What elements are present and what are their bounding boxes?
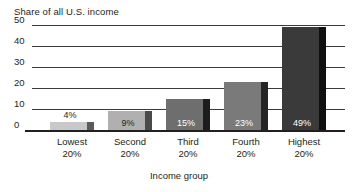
category-label-line1: Fourth (217, 136, 275, 148)
bar-value-label: 9% (106, 119, 150, 128)
bar-value-label: 4% (48, 111, 92, 120)
y-axis-tick-label: 0 (14, 120, 30, 130)
bar-chart: Share of all U.S. income 50403020100 4%9… (0, 0, 358, 192)
x-axis-line (25, 130, 345, 132)
x-axis-category-label: Third20% (159, 136, 217, 159)
bar-slot: 49% (282, 25, 326, 130)
bar-shadow-edge (87, 122, 94, 130)
bar-slot: 9% (108, 25, 152, 130)
category-label-line2: 20% (159, 148, 217, 160)
category-label-line1: Third (159, 136, 217, 148)
bar (50, 122, 94, 130)
bar-slot: 15% (166, 25, 210, 130)
y-axis-tick-label: 20 (14, 78, 30, 88)
x-axis-title: Income group (0, 170, 358, 181)
y-axis-tick-label: 40 (14, 36, 30, 46)
y-axis-tick-label: 30 (14, 57, 30, 67)
x-axis-category-label: Highest20% (275, 136, 333, 159)
bar-shadow-edge (319, 27, 326, 130)
x-axis-category-label: Second20% (101, 136, 159, 159)
category-label-line2: 20% (43, 148, 101, 160)
bar-value-label: 23% (222, 119, 266, 128)
category-label-line2: 20% (101, 148, 159, 160)
bar (282, 27, 326, 130)
y-axis-tick-label: 50 (14, 15, 30, 25)
category-label-line2: 20% (275, 148, 333, 160)
bar-slot: 4% (50, 25, 94, 130)
bar-value-label: 15% (164, 119, 208, 128)
bars-group: 4%9%15%23%49% (32, 25, 345, 130)
category-label-line1: Highest (275, 136, 333, 148)
x-axis-category-label: Fourth20% (217, 136, 275, 159)
bar-slot: 23% (224, 25, 268, 130)
category-label-line1: Second (101, 136, 159, 148)
bar-value-label: 49% (280, 119, 324, 128)
category-label-line2: 20% (217, 148, 275, 160)
y-axis-tick-label: 10 (14, 99, 30, 109)
x-axis-category-label: Lowest20% (43, 136, 101, 159)
category-label-line1: Lowest (43, 136, 101, 148)
